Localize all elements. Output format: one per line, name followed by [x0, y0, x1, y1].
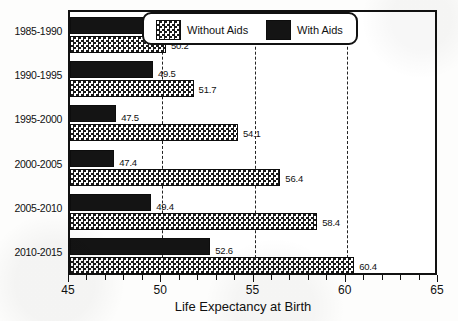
x-tick-label-60: 60: [338, 283, 351, 297]
minor-tick-48: [123, 275, 124, 280]
category-label-1995-2000: 1995-2000: [4, 113, 62, 125]
legend-label-with-aids: With Aids: [297, 24, 343, 36]
x-axis-tick-labels: 4550556065: [68, 283, 437, 299]
minor-tick-57: [289, 275, 290, 280]
x-axis-title-text: Life Expectancy at Birth: [147, 299, 312, 314]
minor-tick-63: [400, 275, 401, 280]
category-label-2010-2015: 2010-2015: [4, 246, 62, 258]
minor-tick-51: [179, 275, 180, 280]
category-label-2005-2010: 2005-2010: [4, 202, 62, 214]
minor-tick-47: [105, 275, 106, 280]
major-tick-50: [160, 275, 161, 282]
x-tick-label-50: 50: [154, 283, 167, 297]
legend-item-with-aids: With Aids: [266, 19, 343, 40]
legend-item-without-aids: Without Aids: [156, 19, 248, 40]
major-tick-45: [68, 275, 69, 282]
x-axis-title: Life Expectancy at Birth: [0, 299, 458, 314]
minor-tick-61: [363, 275, 364, 280]
minor-tick-49: [142, 275, 143, 280]
x-tick-label-45: 45: [61, 283, 74, 297]
life-expectancy-bar-chart: 49.250.249.551.747.554.147.456.449.458.4…: [0, 0, 458, 321]
category-label-1985-1990: 1985-1990: [4, 25, 62, 37]
chart-legend: Without Aids With Aids: [142, 12, 358, 45]
checkerboard-swatch-icon: [156, 20, 181, 40]
minor-tick-62: [382, 275, 383, 280]
solid-black-swatch-icon: [266, 20, 291, 40]
major-tick-65: [437, 275, 438, 282]
legend-label-without-aids: Without Aids: [187, 24, 248, 36]
category-axis-labels: 1985-19901990-19951995-20002000-20052005…: [0, 10, 458, 275]
minor-tick-59: [326, 275, 327, 280]
x-tick-label-55: 55: [246, 283, 259, 297]
minor-tick-52: [197, 275, 198, 280]
minor-tick-54: [234, 275, 235, 280]
x-tick-label-65: 65: [430, 283, 443, 297]
minor-tick-46: [86, 275, 87, 280]
minor-tick-56: [271, 275, 272, 280]
major-tick-60: [345, 275, 346, 282]
major-tick-55: [253, 275, 254, 282]
category-label-2000-2005: 2000-2005: [4, 158, 62, 170]
minor-tick-58: [308, 275, 309, 280]
category-label-1990-1995: 1990-1995: [4, 69, 62, 81]
minor-tick-53: [216, 275, 217, 280]
minor-tick-64: [419, 275, 420, 280]
